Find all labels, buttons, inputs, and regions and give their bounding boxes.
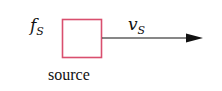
diagram-canvas (0, 0, 222, 91)
frequency-subscript: S (36, 25, 44, 38)
frequency-label: fS (30, 15, 44, 38)
source-label: source (48, 66, 90, 84)
velocity-subscript: S (138, 24, 146, 37)
velocity-label: vS (128, 14, 145, 37)
source-box (63, 20, 102, 58)
velocity-symbol: v (128, 14, 138, 34)
arrowhead-icon (186, 34, 203, 43)
